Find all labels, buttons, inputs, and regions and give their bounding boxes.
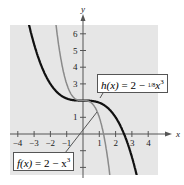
svg-text:3: 3 xyxy=(130,138,135,148)
svg-text:6: 6 xyxy=(73,29,78,39)
svg-text:−4: −4 xyxy=(13,138,23,148)
svg-text:−2: −2 xyxy=(45,138,55,148)
svg-text:4: 4 xyxy=(73,62,78,72)
svg-text:−3: −3 xyxy=(29,138,39,148)
svg-text:1: 1 xyxy=(97,138,102,148)
f-label: f(x) = 2 − x3 xyxy=(13,152,74,171)
svg-text:y: y xyxy=(80,4,85,14)
svg-text:x: x xyxy=(175,129,180,139)
svg-text:2: 2 xyxy=(114,138,119,148)
svg-text:4: 4 xyxy=(146,138,151,148)
svg-text:3: 3 xyxy=(73,79,78,89)
h-label: h(x) = 2 − 1/8x3 xyxy=(97,74,168,93)
svg-text:1: 1 xyxy=(73,112,78,122)
svg-text:5: 5 xyxy=(73,46,78,56)
